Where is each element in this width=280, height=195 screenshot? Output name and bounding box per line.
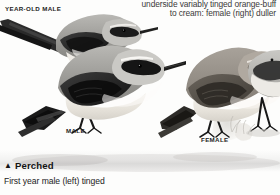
label-year-old-male: YEAR-OLD MALE bbox=[5, 5, 61, 12]
perched-heading-row: ▲ Perched bbox=[4, 160, 54, 171]
triangle-up-icon: ▲ bbox=[4, 162, 12, 170]
label-male: MALE bbox=[66, 127, 85, 134]
plate-caption: First year male (left) tinged bbox=[4, 176, 105, 186]
label-female: FEMALE bbox=[201, 136, 229, 143]
note-line-2: to cream: female (right) duller bbox=[170, 9, 276, 19]
perched-heading-text: Perched bbox=[15, 160, 54, 171]
bird-plate-illustration: underside variably tinged orange-buff to… bbox=[0, 0, 280, 195]
